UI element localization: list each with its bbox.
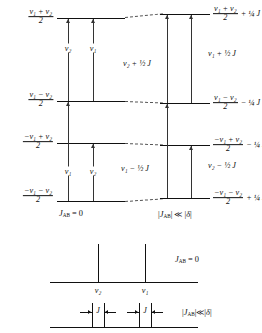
spectrum-coupled-splitting-arrow-1-right bbox=[105, 310, 108, 314]
level-1-left-denominator: 2 bbox=[28, 17, 53, 26]
spectrum-coupled-splitting-label-1: J bbox=[96, 306, 100, 315]
transition-upper-right-label: ν₁ bbox=[89, 44, 97, 53]
spectrum-uncoupled-peak-1-label: ν₂ bbox=[95, 286, 101, 295]
level-3-right-numerator: −ν₁ + ν₂ bbox=[213, 136, 243, 144]
transition-arrow-lower-left-shaft bbox=[68, 102, 69, 201]
spectrum-uncoupled-peak-2-label: ν₁ bbox=[142, 286, 148, 295]
transition-arrow-lower-right-head bbox=[91, 144, 95, 148]
spectrum-coupled-peak-1b bbox=[104, 303, 105, 327]
transition-coupled-upper-right-shaft bbox=[191, 15, 192, 103]
spectrum-uncoupled-peak-1 bbox=[98, 244, 99, 282]
level-2-right-numerator: ν₁ − ν₂ bbox=[213, 94, 238, 102]
spectrum-coupled-peak-2a bbox=[139, 303, 140, 327]
condition-left-caption: JAB = 0 bbox=[59, 209, 83, 218]
level-1-right-numerator: ν₁ + ν₂ bbox=[213, 5, 238, 13]
transition-arrow-upper-right-head bbox=[91, 19, 95, 23]
level-3-connector-dash bbox=[125, 143, 163, 145]
spectrum-coupled-peak-2b bbox=[151, 303, 152, 327]
spectrum-uncoupled-baseline bbox=[50, 282, 198, 283]
level-4-connector-dash bbox=[125, 198, 163, 202]
condition-right-caption: |JAB| ≪ |δ| bbox=[158, 209, 192, 219]
level-1-right-offset: + ¼ J bbox=[241, 9, 260, 18]
level-4-right-offset: + ¼ J bbox=[246, 193, 262, 202]
level-4-left-label: −ν₁ − ν₂ 2 bbox=[22, 187, 54, 205]
level-3-right-denominator: 2 bbox=[213, 145, 243, 154]
spectrum-coupled-peak-1a bbox=[92, 303, 93, 327]
transition-coupled-lower-left-shaft bbox=[167, 104, 168, 198]
spectrum-coupled-splitting-arrow-1-left bbox=[88, 310, 91, 314]
level-4-left-numerator: −ν₁ − ν₂ bbox=[23, 187, 53, 195]
transition-arrow-upper-right-shaft bbox=[93, 19, 94, 101]
spectrum-coupled-splitting-arrow-2-left bbox=[135, 310, 138, 314]
transition-coupled-upper-right-label: ν₁ + ½ J bbox=[207, 49, 237, 58]
transition-coupled-upper-left-label: ν₂ + ½ J bbox=[122, 59, 152, 68]
transition-coupled-lower-right-label: ν₂ − ½ J bbox=[207, 161, 237, 170]
level-4-left-denominator: 2 bbox=[23, 196, 53, 205]
level-1-connector-dash bbox=[125, 13, 163, 18]
transition-upper-left-label: ν₂ bbox=[64, 44, 72, 53]
level-3-left-denominator: 2 bbox=[23, 142, 53, 151]
level-2-connector-dash bbox=[125, 101, 163, 103]
level-3-right-label: −ν₁ + ν₂ 2 − ¼ J bbox=[212, 136, 262, 154]
transition-lower-left-label: ν₁ bbox=[64, 167, 72, 176]
transition-coupled-lower-left-head bbox=[165, 104, 169, 108]
level-1-right-label: ν₁ + ν₂ 2 + ¼ J bbox=[212, 5, 260, 23]
level-4-right-label: −ν₁ − ν₂ 2 + ¼ J bbox=[212, 189, 262, 207]
level-1-left-numerator: ν₁ + ν₂ bbox=[28, 8, 53, 16]
spectrum-coupled-splitting-label-2: J bbox=[143, 306, 147, 315]
level-3-left-label: −ν₁ + ν₂ 2 bbox=[22, 133, 54, 151]
transition-coupled-lower-right-shaft bbox=[191, 146, 192, 198]
level-2-right-offset: − ¼ J bbox=[241, 98, 260, 107]
spectrum-uncoupled-peak-2 bbox=[145, 244, 146, 282]
spectrum-coupled-baseline bbox=[50, 327, 198, 328]
level-2-right-denominator: 2 bbox=[213, 103, 238, 112]
level-1-left-label: ν₁ + ν₂ 2 bbox=[27, 8, 54, 26]
transition-arrow-upper-left-shaft bbox=[68, 19, 69, 101]
level-3-left-numerator: −ν₁ + ν₂ bbox=[23, 133, 53, 141]
transition-coupled-upper-left-head bbox=[165, 15, 169, 19]
transition-coupled-upper-right-head bbox=[189, 15, 193, 19]
level-2-left-denominator: 2 bbox=[28, 100, 53, 109]
transition-arrow-lower-left-head bbox=[66, 102, 70, 106]
figure-canvas: ν₁ + ν₂ 2 ν₁ + ν₂ 2 + ¼ J ν₁ − ν₂ 2 bbox=[0, 0, 262, 333]
spectrum-coupled-condition: |JAB|≪|δ| bbox=[182, 307, 212, 317]
level-4-right-denominator: 2 bbox=[213, 198, 243, 207]
transition-coupled-upper-left-shaft bbox=[167, 15, 168, 103]
transition-arrow-upper-left-head bbox=[66, 19, 70, 23]
level-2-left-label: ν₁ − ν₂ 2 bbox=[27, 91, 54, 109]
level-1-right-denominator: 2 bbox=[213, 14, 238, 23]
level-4-right-numerator: −ν₁ − ν₂ bbox=[213, 189, 243, 197]
level-4-line-right bbox=[160, 198, 210, 199]
level-2-right-label: ν₁ − ν₂ 2 − ¼ J bbox=[212, 94, 260, 112]
level-3-right-offset: − ¼ J bbox=[246, 140, 262, 149]
spectrum-uncoupled-condition: JAB = 0 bbox=[175, 255, 199, 264]
level-2-left-numerator: ν₁ − ν₂ bbox=[28, 91, 53, 99]
transition-coupled-lower-right-head bbox=[189, 146, 193, 150]
spectrum-coupled-splitting-arrow-2-right bbox=[152, 310, 155, 314]
transition-lower-right-label: ν₂ bbox=[89, 167, 97, 176]
level-4-line-left bbox=[57, 201, 125, 202]
transition-coupled-lower-left-label: ν₁ − ½ J bbox=[120, 164, 150, 173]
